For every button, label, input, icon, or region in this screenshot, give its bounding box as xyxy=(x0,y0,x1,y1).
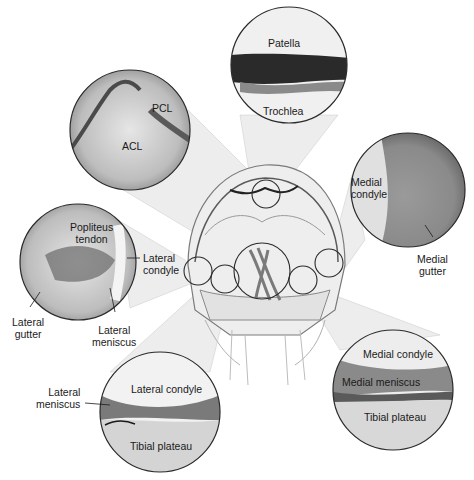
label-medial-condyle-top: Medial condyle xyxy=(351,176,387,200)
label-line: gutter xyxy=(12,328,44,340)
view-intercondylar-notch xyxy=(70,70,190,190)
label-line: Lateral xyxy=(92,324,136,336)
label-tibial-plateau-left: Tibial plateau xyxy=(130,440,192,452)
label-medial-meniscus: Medial meniscus xyxy=(342,376,420,388)
label-lateral-condyle-bottom: Lateral condyle xyxy=(131,383,202,395)
label-popliteus-tendon: Popliteus tendon xyxy=(70,221,113,245)
label-line: tendon xyxy=(70,233,113,245)
label-line: condyle xyxy=(143,264,179,276)
label-medial-condyle-bottom: Medial condyle xyxy=(363,348,433,360)
label-medial-gutter: Medial gutter xyxy=(417,253,448,277)
label-line: Lateral xyxy=(12,316,44,328)
label-pcl: PCL xyxy=(152,102,172,114)
view-lateral-gutter xyxy=(18,202,140,322)
label-line: Medial xyxy=(351,176,387,188)
label-line: Popliteus xyxy=(70,221,113,233)
label-lateral-condyle-mid: Lateral condyle xyxy=(143,252,179,276)
label-line: gutter xyxy=(417,265,448,277)
label-line: meniscus xyxy=(36,398,80,410)
label-acl: ACL xyxy=(122,140,142,152)
label-patella: Patella xyxy=(268,37,300,49)
label-line: Lateral xyxy=(143,252,179,264)
view-lateral-compartment xyxy=(85,352,220,472)
label-line: meniscus xyxy=(92,336,136,348)
label-line: condyle xyxy=(351,188,387,200)
label-tibial-plateau-right: Tibial plateau xyxy=(364,411,426,423)
label-line: Medial xyxy=(417,253,448,265)
label-lateral-gutter: Lateral gutter xyxy=(12,316,44,340)
label-lateral-meniscus-bottom: Lateral meniscus xyxy=(36,386,80,410)
knee-arthroscopy-diagram: Patella Trochlea PCL ACL Medial condyle … xyxy=(0,0,474,480)
label-trochlea: Trochlea xyxy=(263,105,303,117)
label-lateral-meniscus-mid: Lateral meniscus xyxy=(92,324,136,348)
label-line: Lateral xyxy=(36,386,80,398)
